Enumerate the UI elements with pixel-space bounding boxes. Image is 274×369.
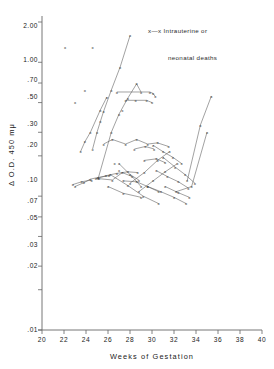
data-point-marker: x xyxy=(152,178,155,183)
data-point-marker: x xyxy=(133,147,136,152)
page-edge-artifact xyxy=(0,362,274,369)
data-point-marker: x xyxy=(127,96,130,101)
data-point-marker: x xyxy=(84,88,87,93)
data-point-marker: x xyxy=(135,81,138,86)
data-point-marker: x xyxy=(210,94,213,99)
y-tick-label: .20 xyxy=(12,141,38,148)
x-tick-label: 26 xyxy=(98,336,118,343)
data-point-marker: x xyxy=(74,100,77,105)
data-point-marker: x xyxy=(64,45,67,50)
legend-entry-deaths: x—x Intrauterine or xyxy=(148,26,217,35)
x-tick-label: 22 xyxy=(54,336,74,343)
legend-marker: x—x xyxy=(148,27,161,34)
data-point-marker: x xyxy=(156,158,159,163)
data-point-marker: x xyxy=(166,174,169,179)
x-tick-label: 36 xyxy=(208,336,228,343)
x-tick-label: 20 xyxy=(32,336,52,343)
y-axis-title: Δ O.D. 450 mμ xyxy=(7,95,16,215)
data-point-marker: x xyxy=(199,123,202,128)
y-tick-label: .03 xyxy=(12,241,38,248)
data-point-marker: x xyxy=(164,184,167,189)
data-point-marker: x xyxy=(173,195,176,200)
series-line xyxy=(187,96,211,181)
data-point-marker: x xyxy=(160,189,163,194)
x-tick-label: 34 xyxy=(186,336,206,343)
series-line xyxy=(126,100,152,102)
data-point-marker: x xyxy=(181,161,184,166)
x-tick-label: 28 xyxy=(120,336,140,343)
data-point-marker: x xyxy=(96,130,99,135)
data-point-marker: x xyxy=(186,178,189,183)
data-point-marker: x xyxy=(194,181,197,186)
x-tick-label: 32 xyxy=(164,336,184,343)
data-point-marker: x xyxy=(164,160,167,165)
data-point-marker: x xyxy=(177,179,180,184)
data-point-marker: x xyxy=(176,161,179,166)
legend: x—x Intrauterine or neonatal deaths xyxy=(148,8,217,71)
data-point-marker: x xyxy=(111,137,114,142)
data-point-marker: x xyxy=(157,201,160,206)
data-point-marker: x xyxy=(138,178,141,183)
data-point-marker: x xyxy=(156,140,159,145)
data-point-marker: x xyxy=(74,184,77,189)
data-point-marker: x xyxy=(137,170,140,175)
data-point-marker: x xyxy=(79,149,82,154)
data-point-marker: x xyxy=(172,155,175,160)
data-point-marker: x xyxy=(151,100,154,105)
data-point-marker: x xyxy=(135,137,138,142)
x-tick-label: 40 xyxy=(252,336,272,343)
y-tick-label: .50 xyxy=(12,93,38,100)
y-tick-label: .30 xyxy=(12,120,38,127)
data-point-marker: x xyxy=(129,33,132,38)
data-point-marker: x xyxy=(162,149,165,154)
data-point-marker: x xyxy=(118,161,121,166)
data-point-marker: x xyxy=(185,201,188,206)
data-point-marker: x xyxy=(143,158,146,163)
legend-label-line2: neonatal deaths xyxy=(148,53,217,62)
data-point-marker: x xyxy=(110,130,113,135)
data-point-marker: x xyxy=(107,184,110,189)
x-tick-label: 30 xyxy=(142,336,162,343)
data-point-marker: x xyxy=(91,147,94,152)
data-point-marker: x xyxy=(102,109,105,114)
data-point-marker: x xyxy=(119,65,122,70)
data-point-marker: x xyxy=(154,94,157,99)
data-point-marker: x xyxy=(184,172,187,177)
data-point-marker: x xyxy=(84,139,87,144)
data-point-marker: x xyxy=(188,195,191,200)
data-point-marker: x xyxy=(110,88,113,93)
y-tick-label: 2.00 xyxy=(12,22,38,29)
data-point-marker: x xyxy=(91,45,94,50)
legend-label-line1: Intrauterine or xyxy=(164,27,208,34)
y-tick-label: .01 xyxy=(12,326,38,333)
data-point-marker: x xyxy=(99,119,102,124)
data-point-marker: x xyxy=(206,130,209,135)
y-tick-label: 1.00 xyxy=(12,56,38,63)
data-point-marker: x xyxy=(155,168,158,173)
data-point-marker: x xyxy=(121,170,124,175)
data-point-marker: x xyxy=(121,108,124,113)
chart-figure: xxxxxxxxxxxxxxxxxxxxxxxxxxxxxxxxxxxxxxxx… xyxy=(0,0,274,369)
data-point-marker: x xyxy=(124,142,127,147)
data-point-marker: x xyxy=(89,130,92,135)
data-point-marker: x xyxy=(168,149,171,154)
data-point-marker: x xyxy=(111,178,114,183)
data-point-marker: x xyxy=(145,98,148,103)
y-tick-label: .10 xyxy=(12,176,38,183)
y-tick-label: .70 xyxy=(12,76,38,83)
x-axis-title: Weeks of Gestation xyxy=(42,352,262,361)
y-tick-label: .05 xyxy=(12,214,38,221)
data-point-marker: x xyxy=(102,142,105,147)
x-tick-label: 38 xyxy=(230,336,250,343)
y-tick-label: .02 xyxy=(12,262,38,269)
data-point-marker: x xyxy=(113,161,116,166)
data-point-marker: x xyxy=(142,194,145,199)
y-tick-label: .07 xyxy=(12,197,38,204)
data-point-marker: x xyxy=(146,184,149,189)
data-point-marker: x xyxy=(140,184,143,189)
series-line xyxy=(139,164,178,192)
x-tick-label: 24 xyxy=(76,336,96,343)
